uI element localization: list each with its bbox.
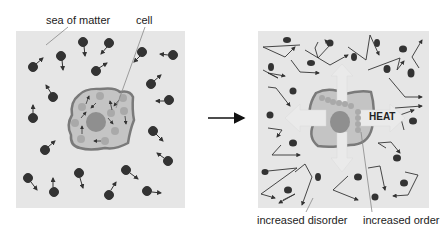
label-sea-of-matter: sea of matter (46, 14, 110, 26)
label-increased-disorder: increased disorder (257, 214, 348, 226)
cell (69, 88, 134, 149)
label-cell: cell (136, 14, 153, 26)
label-heat: HEAT (369, 111, 395, 122)
right-panel (258, 31, 429, 212)
left-panel (16, 27, 185, 208)
label-increased-order: increased order (363, 214, 439, 226)
